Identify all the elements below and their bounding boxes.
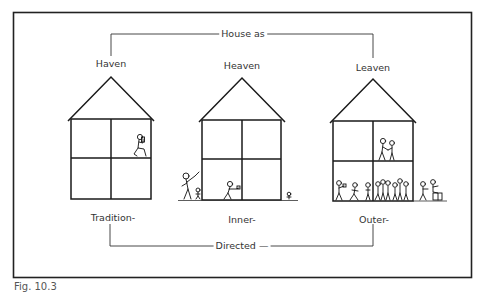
type-label-tradition: Tradition-	[91, 212, 135, 223]
type-label-outer: Outer-	[359, 214, 389, 225]
house-haven	[68, 77, 154, 199]
adult-figure-outside	[182, 172, 199, 199]
figure-inside	[224, 181, 240, 199]
house-label-haven: Haven	[96, 58, 126, 69]
bottom-bracket-dash: —	[259, 240, 269, 251]
couple-figures	[379, 138, 394, 160]
outside-figures	[420, 180, 442, 200]
house-heaven	[178, 78, 298, 201]
top-bracket-label: House as	[219, 28, 267, 39]
seated-reader-figure	[134, 134, 146, 156]
house-label-leaven: Leaven	[356, 62, 390, 73]
figure-caption: Fig. 10.3	[14, 281, 57, 292]
bottom-bracket-text: Directed	[216, 240, 256, 251]
house-label-heaven: Heaven	[224, 60, 260, 71]
house-leaven	[330, 79, 447, 201]
bottom-bracket-label: Directed —	[214, 240, 271, 251]
small-figure-right	[287, 192, 291, 199]
type-label-inner: Inner-	[228, 214, 255, 225]
crowd-figures	[336, 179, 408, 200]
child-figure-outside	[196, 188, 200, 199]
